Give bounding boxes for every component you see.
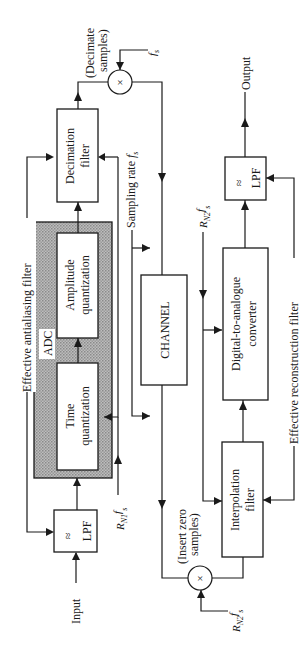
input-signal: Input — [69, 552, 83, 624]
amplitude-quantization-line1: Amplitude — [63, 259, 77, 310]
interpolation-filter-line1: Interpolation — [228, 469, 242, 531]
input-lpf-block: ≈ LPF — [54, 510, 97, 552]
interpolation-filter-block: Interpolation filter — [222, 442, 263, 557]
codec-block-diagram: Input ≈ LPF ADC Time quantization Amplit… — [0, 0, 305, 658]
dac-line1: Digital-to-analogue — [229, 277, 243, 371]
input-label: Input — [69, 598, 83, 624]
adc-block: ADC Time quantization Amplitude quantiza… — [34, 222, 112, 478]
sampling-rate-label: Sampling rate fs — [124, 152, 140, 228]
dac-block: Digital-to-analogue converter — [223, 248, 268, 400]
multiply-icon: × — [117, 76, 123, 88]
input-lpf-label: LPF — [80, 520, 94, 541]
rn2-fs-mult-label: RN2fs — [227, 610, 245, 633]
time-quantization-line2: quantization — [78, 386, 92, 445]
interpolator-multiplier: × — [188, 566, 212, 590]
channel-block: CHANNEL — [141, 275, 187, 385]
effective-reconstruction-filter-bracket: Effective reconstruction filter — [263, 174, 302, 504]
decimation-filter-block: Decimation filter — [57, 109, 98, 202]
multiply-icon: × — [197, 572, 203, 584]
amplitude-quantization-line2: quantization — [78, 255, 92, 314]
interpolation-filter-line2: filter — [243, 488, 257, 511]
insert-zero-label-line2: samples) — [187, 513, 201, 556]
decimation-filter-line2: filter — [78, 144, 92, 167]
effective-reconstruction-filter-label: Effective reconstruction filter — [287, 302, 301, 444]
adc-label: ADC — [41, 331, 55, 356]
approx-symbol: ≈ — [61, 532, 75, 539]
rn2-fs-bracket: RN2fs — [194, 206, 222, 505]
output-lpf-block: ≈ LPF — [225, 157, 266, 200]
approx-symbol: ≈ — [232, 179, 246, 186]
effective-antialiasing-filter-label: Effective antialiasing filter — [20, 264, 34, 392]
rn2-fs-dac-label: RN2fs — [194, 206, 212, 229]
output-label: Output — [239, 56, 253, 90]
dac-line2: converter — [245, 301, 259, 346]
time-quantization-line1: Time — [63, 404, 77, 429]
decimator-multiplier: × — [108, 70, 132, 94]
decimate-label-line2: samples) — [96, 29, 110, 72]
fs-label-top: fs — [146, 50, 161, 56]
decimate-label-line1: (Decimate — [83, 28, 97, 78]
output-lpf-label: LPF — [249, 167, 263, 188]
rn1-fs-label: RN1fs — [111, 508, 129, 531]
channel-label: CHANNEL — [158, 301, 172, 358]
decimation-filter-line1: Decimation — [63, 128, 77, 184]
